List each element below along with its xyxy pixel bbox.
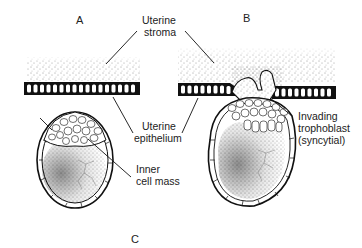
blastocyst-b <box>208 98 295 206</box>
label-line: Uterine <box>134 120 182 132</box>
label-line: cell mass <box>136 175 180 187</box>
panel-label-a: A <box>76 14 83 26</box>
label-line: Uterine <box>142 14 176 26</box>
epithelium-b-left <box>178 83 240 96</box>
stroma-b <box>178 46 336 86</box>
label-inner-cell-mass: Inner cell mass <box>136 163 180 187</box>
label-line: stroma <box>142 26 176 38</box>
label-uterine-stroma: Uterine stroma <box>142 14 176 38</box>
panel-label-c: C <box>131 233 139 245</box>
label-uterine-epithelium: Uterine epithelium <box>134 120 182 144</box>
label-invading-trophoblast: Invading trophoblast (syncytial) <box>298 110 350 146</box>
epithelium-b-right <box>272 86 336 99</box>
stroma-a <box>27 55 140 81</box>
panel-label-b: B <box>243 12 250 24</box>
epithelium-a <box>24 82 140 95</box>
label-line: Invading <box>298 110 350 122</box>
label-line: (syncytial) <box>298 134 350 146</box>
label-line: trophoblast <box>298 122 350 134</box>
label-line: Inner <box>136 163 180 175</box>
label-line: epithelium <box>134 132 182 144</box>
